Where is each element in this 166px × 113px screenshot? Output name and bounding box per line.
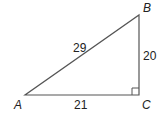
vertex-label-b: B: [143, 1, 151, 15]
vertex-label-c: C: [142, 98, 151, 112]
right-angle-marker: [132, 88, 139, 95]
side-label-ab: 29: [73, 41, 87, 55]
vertex-label-a: A: [13, 98, 22, 112]
side-label-ac: 21: [74, 98, 88, 112]
side-label-bc: 20: [143, 49, 157, 63]
triangle-diagram: B C A 29 20 21: [0, 0, 166, 113]
triangle-abc: [25, 15, 139, 95]
